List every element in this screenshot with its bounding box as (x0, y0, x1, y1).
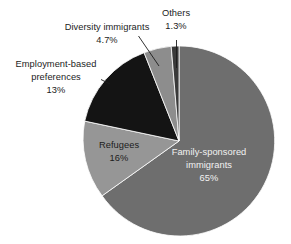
slice-label-employment-based-preferences-value: 13% (47, 85, 66, 95)
pie-chart: Others 1.3% Diversity immigrants 4.7% Em… (0, 0, 291, 244)
chart-canvas: Others 1.3% Diversity immigrants 4.7% Em… (0, 0, 291, 244)
slice-label-family-sponsored-immigrants-name-line1: Family-sponsored (172, 147, 247, 157)
slice-label-employment-based-preferences-name-line1: Employment-based (16, 59, 97, 69)
slice-label-others-value: 1.3% (165, 21, 186, 31)
slice-label-employment-based-preferences-name-line2: preferences (31, 72, 81, 82)
slice-label-refugees-name: Refugees (99, 140, 139, 150)
slice-label-family-sponsored-immigrants-name-line2: immigrants (186, 160, 232, 170)
slice-label-diversity-immigrants-value: 4.7% (96, 35, 117, 45)
slice-label-others-name: Others (162, 8, 191, 18)
slice-label-refugees-value: 16% (110, 153, 129, 163)
slice-label-family-sponsored-immigrants-value: 65% (200, 173, 219, 183)
slice-label-diversity-immigrants-name: Diversity immigrants (65, 22, 150, 32)
